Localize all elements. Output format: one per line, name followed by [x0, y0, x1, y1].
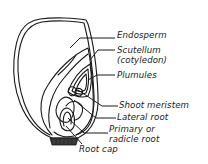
- coleorhiza: [54, 132, 74, 137]
- label-scutellum: Scutellum: [117, 45, 161, 55]
- label-lateral-root: Lateral root: [117, 112, 168, 122]
- leader-lateral-root: [74, 100, 116, 118]
- label-plumules: Plumules: [117, 70, 157, 80]
- label-cotyledon: (cotyledon): [117, 55, 167, 65]
- seed-diagram: Endosperm Scutellum (cotyledon) Plumules…: [0, 0, 208, 164]
- label-root-cap: Root cap: [79, 144, 118, 154]
- scutellum-vein: [58, 55, 76, 75]
- seed-coat-outline: [14, 18, 98, 138]
- seed-illustration: [0, 0, 208, 164]
- label-shoot-meristem: Shoot meristem: [119, 100, 189, 110]
- label-primary-root-line1: Primary or: [109, 124, 155, 134]
- label-endosperm: Endosperm: [117, 30, 167, 40]
- label-primary-root-line2: radicle root: [109, 134, 159, 144]
- primary-root-inner: [63, 112, 71, 126]
